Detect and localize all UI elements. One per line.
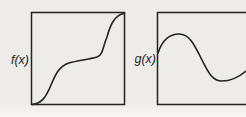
g-curve xyxy=(158,34,246,81)
g-label: g(x) xyxy=(118,52,156,66)
function-diagram: f(x) g(x) xyxy=(0,0,246,117)
f-curve xyxy=(32,14,125,105)
f-label: f(x) xyxy=(0,53,29,67)
